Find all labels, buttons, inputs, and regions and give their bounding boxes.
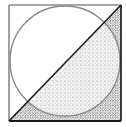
square-circle-diagram (0, 0, 126, 127)
